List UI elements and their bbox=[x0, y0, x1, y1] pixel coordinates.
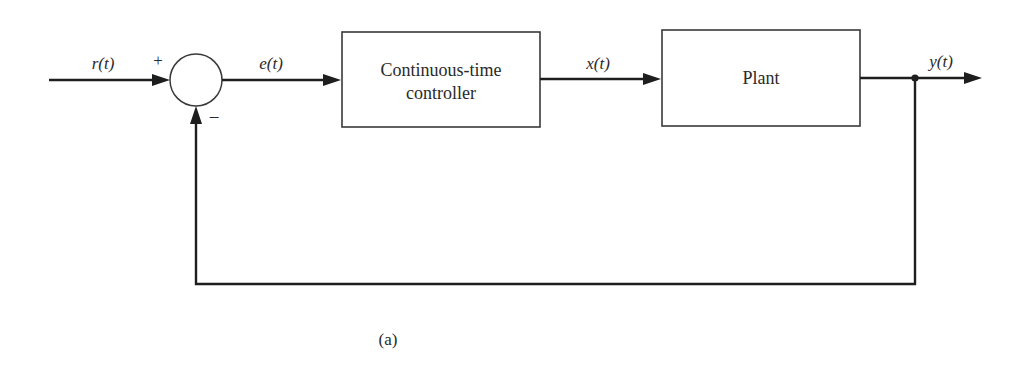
plus-sign: + bbox=[153, 51, 163, 70]
input-signal-label: r(t) bbox=[92, 54, 115, 73]
summing-junction bbox=[170, 54, 222, 106]
controller-block: Continuous-time controller bbox=[342, 32, 540, 127]
output-signal-label: y(t) bbox=[927, 52, 953, 71]
control-signal-wire bbox=[540, 73, 661, 85]
controller-label-line2: controller bbox=[406, 83, 476, 103]
arrowhead-icon bbox=[190, 106, 202, 124]
arrowhead-icon bbox=[643, 73, 661, 85]
error-signal-wire bbox=[222, 74, 341, 86]
plant-label: Plant bbox=[742, 68, 779, 88]
control-signal-label: x(t) bbox=[585, 54, 610, 73]
input-signal-wire bbox=[49, 74, 170, 86]
plant-block: Plant bbox=[662, 30, 860, 126]
arrowhead-icon bbox=[964, 72, 982, 84]
controller-label-line1: Continuous-time bbox=[381, 60, 502, 80]
block-diagram: r(t) + − e(t) Continuous-time controller… bbox=[0, 0, 1028, 369]
output-signal-wire bbox=[860, 72, 982, 84]
minus-sign: − bbox=[209, 107, 220, 128]
figure-caption: (a) bbox=[379, 330, 398, 349]
error-signal-label: e(t) bbox=[259, 54, 283, 73]
arrowhead-icon bbox=[323, 74, 341, 86]
arrowhead-icon bbox=[152, 74, 170, 86]
